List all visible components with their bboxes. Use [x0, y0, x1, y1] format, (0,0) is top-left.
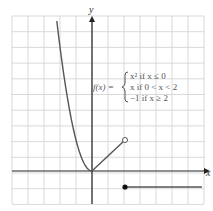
closed-endpoint — [122, 184, 127, 189]
x-axis-label: x — [205, 167, 211, 178]
grid — [12, 16, 204, 204]
linear-piece — [92, 140, 125, 171]
open-endpoint — [123, 138, 128, 143]
brace — [122, 72, 128, 102]
piece-3: −1 if x ≥ 2 — [130, 93, 168, 103]
piecewise-function-graph: y x f(x) = x² if x ≤ 0 x if 0 < x < 2 −1… — [0, 0, 213, 211]
parabola-piece — [57, 21, 92, 171]
fx-label: f(x) = — [93, 82, 114, 92]
piece-1: x² if x ≤ 0 — [130, 71, 166, 81]
y-axis-label: y — [88, 4, 94, 15]
function-definition: f(x) = x² if x ≤ 0 x if 0 < x < 2 −1 if … — [93, 71, 177, 103]
piece-2: x if 0 < x < 2 — [130, 82, 177, 92]
axes: y x — [12, 4, 211, 204]
y-axis-arrow-icon — [89, 16, 95, 22]
